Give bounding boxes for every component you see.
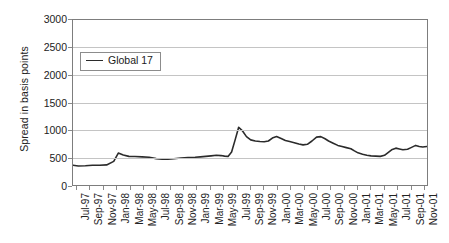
gridline-2000 [73,75,427,76]
y-tick-mark [68,75,72,76]
y-tick-2000: 2000 [44,69,67,81]
x-tick-nov-99: Nov-99 [267,193,278,225]
y-tick-mark [68,103,72,104]
x-tick-mark [290,186,291,190]
y-tick-mark [68,158,72,159]
x-tick-mark [344,186,345,190]
x-tick-mar-01: Mar-01 [374,193,385,225]
y-tick-3000: 3000 [44,13,67,25]
x-tick-mark [156,186,157,190]
x-tick-mark [357,186,358,190]
x-tick-mark [76,186,77,190]
x-tick-jul-00: Jul-00 [321,193,332,220]
x-tick-nov-97: Nov-97 [107,193,118,225]
x-tick-jul-01: Jul-01 [401,193,412,220]
x-tick-sep-97: Sep-97 [93,193,104,225]
x-tick-jan-00: Jan-00 [281,193,292,224]
x-tick-mark [223,186,224,190]
legend-label-global-17: Global 17 [108,55,153,67]
x-tick-mark [397,186,398,190]
x-tick-jul-98: Jul-98 [160,193,171,220]
x-tick-sep-98: Sep-98 [174,193,185,225]
x-tick-nov-00: Nov-00 [348,193,359,225]
plot-area [72,19,428,186]
x-tick-mark [250,186,251,190]
x-tick-mark [277,186,278,190]
y-tick-2500: 2500 [44,41,67,53]
x-tick-mark [103,186,104,190]
y-tick-mark [68,130,72,131]
x-tick-mark [89,186,90,190]
x-tick-mark [116,186,117,190]
x-tick-mark [263,186,264,190]
legend-line-swatch [86,60,103,61]
y-tick-500: 500 [49,152,67,164]
chart-figure: Spread in basis points 05001000150020002… [0,0,449,243]
x-tick-mark [196,186,197,190]
y-axis-tick-labels: 050010001500200025003000 [22,0,67,243]
y-tick-0: 0 [61,180,67,192]
x-tick-mark [210,186,211,190]
x-tick-mar-99: Mar-99 [214,193,225,225]
chart-legend: Global 17 [80,52,161,71]
x-tick-may-99: May-99 [227,193,238,226]
x-tick-jan-99: Jan-99 [200,193,211,224]
x-tick-nov-98: Nov-98 [187,193,198,225]
x-tick-nov-01: Nov-01 [428,193,439,225]
x-tick-mark [370,186,371,190]
x-tick-mark [424,186,425,190]
y-tick-1000: 1000 [44,124,67,136]
x-tick-sep-01: Sep-01 [415,193,426,225]
y-tick-mark [68,47,72,48]
x-tick-may-01: May-01 [388,193,399,226]
x-tick-jul-97: Jul-97 [80,193,91,220]
gridline-1500 [73,103,427,104]
x-tick-mark [183,186,184,190]
x-tick-sep-99: Sep-99 [254,193,265,225]
x-tick-mark [317,186,318,190]
y-tick-1500: 1500 [44,97,67,109]
x-tick-mark [130,186,131,190]
x-tick-mark [143,186,144,190]
x-tick-mar-00: Mar-00 [294,193,305,225]
x-tick-mark [237,186,238,190]
gridline-2500 [73,47,427,48]
x-tick-jul-99: Jul-99 [241,193,252,220]
x-tick-jan-01: Jan-01 [361,193,372,224]
x-tick-mark [411,186,412,190]
x-tick-may-98: May-98 [147,193,158,226]
x-tick-sep-00: Sep-00 [334,193,345,225]
gridline-1000 [73,130,427,131]
x-axis-tick-labels: Jul-97Sep-97Nov-97Jan-98Mar-98May-98Jul-… [72,186,428,243]
x-tick-mark [384,186,385,190]
x-tick-mark [170,186,171,190]
y-tick-mark [68,186,72,187]
x-tick-jan-98: Jan-98 [120,193,131,224]
x-tick-mark [304,186,305,190]
gridline-500 [73,158,427,159]
y-tick-mark [68,19,72,20]
x-tick-may-00: May-00 [308,193,319,226]
x-tick-mar-98: Mar-98 [134,193,145,225]
x-tick-mark [330,186,331,190]
